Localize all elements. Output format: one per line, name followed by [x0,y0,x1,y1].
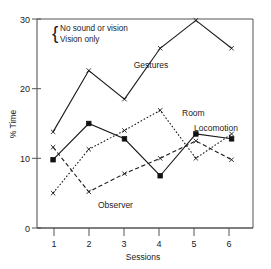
y-tick-label-20: 20 [20,84,30,94]
series-layer [51,18,234,195]
x-axis-label: Sessions [126,252,161,262]
legend-entry-1: Vision only [60,35,100,44]
data-point [229,137,234,142]
observer-label: Observer [98,200,133,210]
y-tick-label-10: 10 [20,154,30,164]
x-axis-ticks [54,228,229,236]
data-point [122,137,127,142]
room-label: Room [182,108,205,118]
data-point [158,108,162,112]
line-chart-svg: 30 20 10 0 % Time 1 2 3 4 5 6 Sessions {… [0,0,271,269]
y-tick-label-0: 0 [25,224,30,234]
data-point [51,157,56,162]
data-point [51,145,55,149]
series-line-observer [53,141,232,192]
legend-brace: { [52,22,59,43]
data-point [229,46,233,50]
locomotion-label: Locomotion [194,123,238,133]
data-point [122,128,126,132]
data-point [87,190,91,194]
data-point [51,191,55,195]
data-point [229,158,233,162]
data-point [158,156,162,160]
y-tick-label-30: 30 [20,15,30,25]
data-point [87,68,91,72]
data-point [122,171,126,175]
chart-figure: 30 20 10 0 % Time 1 2 3 4 5 6 Sessions {… [0,0,271,269]
data-point [87,147,91,151]
gestures-label: Gestures [134,60,169,70]
series-observer [51,139,234,194]
data-point [122,97,126,101]
series-room [51,108,234,195]
legend: { No sound or vision Vision only [52,22,128,44]
x-tick-label-4: 4 [156,239,161,249]
x-tick-label-1: 1 [51,239,56,249]
data-point [158,173,163,178]
data-point [194,139,198,143]
x-tick-label-2: 2 [86,239,91,249]
data-point [158,46,162,50]
data-point [194,156,198,160]
x-tick-label-6: 6 [226,239,231,249]
y-axis-label: % Time [8,110,18,139]
x-tick-label-3: 3 [121,239,126,249]
data-point [51,130,55,134]
x-tick-label-5: 5 [191,239,196,249]
data-point [86,121,91,126]
legend-entry-0: No sound or vision [60,24,128,33]
